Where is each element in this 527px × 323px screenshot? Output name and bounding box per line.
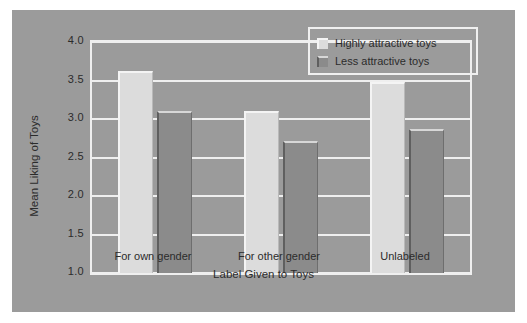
- y-tick-label: 1.5: [54, 227, 84, 239]
- dark-swatch-icon: [317, 56, 328, 67]
- x-tick-label: For other gender: [238, 250, 320, 262]
- legend-entry-less-attractive: Less attractive toys: [317, 52, 469, 70]
- y-tick-label: 4.0: [54, 34, 84, 46]
- y-tick-label: 3.0: [54, 111, 84, 123]
- y-axis-tick-labels: 1.01.52.02.53.03.54.0: [50, 10, 84, 312]
- x-tick-label: For own gender: [114, 250, 191, 262]
- bar: [370, 82, 405, 273]
- light-swatch-icon: [317, 38, 328, 49]
- bar: [118, 71, 153, 274]
- legend-label: Highly attractive toys: [335, 37, 436, 49]
- y-tick-label: 3.5: [54, 73, 84, 85]
- bar: [244, 111, 279, 273]
- x-tick-label: Unlabeled: [380, 250, 430, 262]
- plot-area: [90, 40, 472, 275]
- y-axis-title: Mean Liking of Toys: [28, 86, 40, 246]
- legend-entry-highly-attractive: Highly attractive toys: [317, 34, 469, 52]
- y-tick-label: 2.0: [54, 188, 84, 200]
- x-axis-title: Label Given to Toys: [12, 268, 515, 280]
- legend-label: Less attractive toys: [335, 55, 429, 67]
- chart-legend: Highly attractive toys Less attractive t…: [308, 27, 478, 75]
- y-tick-label: 2.5: [54, 150, 84, 162]
- bar: [157, 111, 192, 273]
- chart-figure: Mean Liking of Toys 1.01.52.02.53.03.54.…: [12, 10, 515, 312]
